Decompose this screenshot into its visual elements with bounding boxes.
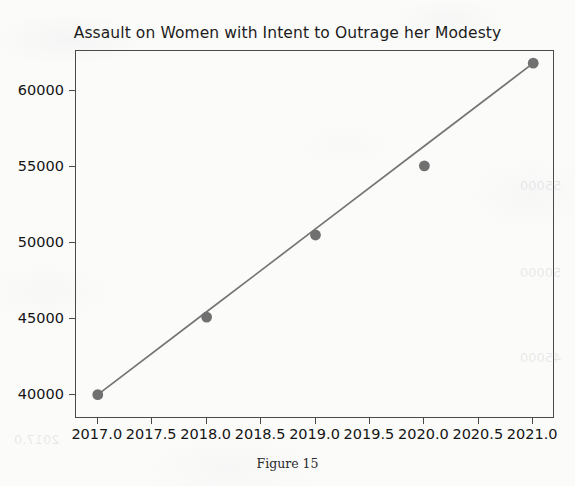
y-axis-tick-label: 50000 — [2, 234, 64, 250]
x-axis-tick-mark — [369, 418, 370, 424]
data-point-marker — [310, 230, 321, 241]
x-axis-tick-mark — [151, 418, 152, 424]
data-point-marker — [92, 389, 103, 400]
plot-svg — [76, 51, 555, 419]
y-axis-tick-label: 40000 — [2, 386, 64, 402]
y-axis-tick-label: 60000 — [2, 82, 64, 98]
data-point-marker — [419, 160, 430, 171]
data-point-marker — [201, 312, 212, 323]
y-axis-tick-labels: 4000045000500005500060000 — [0, 0, 64, 486]
figure-caption: Figure 15 — [0, 456, 575, 471]
data-point-marker — [528, 58, 539, 69]
x-axis-tick-mark — [97, 418, 98, 424]
y-axis-tick-label: 55000 — [2, 158, 64, 174]
x-axis-tick-mark — [423, 418, 424, 424]
figure-page: 2017.0 55000 50000 45000 Assault on Wome… — [0, 0, 575, 486]
x-axis-tick-mark — [532, 418, 533, 424]
trend-line — [98, 63, 533, 395]
chart-title: Assault on Women with Intent to Outrage … — [0, 24, 575, 42]
x-axis-tick-mark — [206, 418, 207, 424]
y-axis-tick-label: 45000 — [2, 310, 64, 326]
plot-area — [75, 50, 554, 418]
x-axis-tick-mark — [315, 418, 316, 424]
x-axis-tick-mark — [260, 418, 261, 424]
x-axis-tick-mark — [478, 418, 479, 424]
x-axis-tick-label: 2021.0 — [497, 426, 567, 442]
trend-line-path — [98, 63, 533, 395]
